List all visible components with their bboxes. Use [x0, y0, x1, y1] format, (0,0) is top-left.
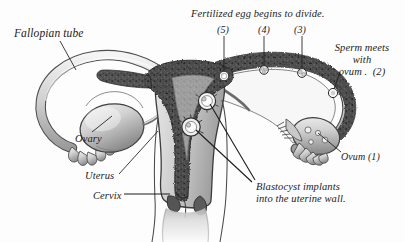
- vagina: [162, 208, 210, 242]
- label-stage-3: (3): [294, 24, 306, 35]
- label-ovary: Ovary: [75, 133, 102, 145]
- stage-5-blastocyst-in-tube: [219, 71, 229, 81]
- label-stage-5: (5): [217, 24, 229, 35]
- stage-3-cleavage: [298, 69, 307, 78]
- stage-4-morula: [260, 66, 269, 75]
- label-sperm-meets-ovum: Sperm meets with ovum . (2): [322, 42, 402, 77]
- label-cervix: Cervix: [93, 190, 122, 202]
- label-stage-4: (4): [258, 24, 270, 35]
- label-blastocyst-implants: Blastocyst implants into the uterine wal…: [256, 181, 391, 205]
- label-ovum-1: Ovum (1): [341, 151, 380, 162]
- label-fallopian-tube: Fallopian tube: [14, 27, 83, 40]
- label-uterus: Uterus: [85, 170, 114, 182]
- label-fertilized-egg: Fertilized egg begins to divide.: [191, 8, 325, 20]
